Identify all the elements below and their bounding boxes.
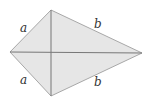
label-top-right-side: b xyxy=(94,17,102,31)
label-bottom-left-side: a xyxy=(20,73,27,87)
label-bottom-right-side: b xyxy=(94,75,102,89)
kite-diagram: a a b b xyxy=(0,0,152,99)
label-top-left-side: a xyxy=(20,21,27,35)
